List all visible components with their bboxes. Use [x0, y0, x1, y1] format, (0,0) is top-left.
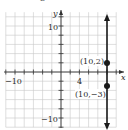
y-tick-label-neg10: −10: [41, 115, 58, 124]
line-arrow-up-icon: [104, 14, 110, 21]
y-axis-label: y: [52, 9, 58, 18]
x-tick-label-4: 4: [77, 77, 82, 86]
point-10-neg3: [104, 83, 110, 89]
line-arrow-down-icon: [104, 123, 110, 130]
x-axis-label: x: [121, 73, 126, 82]
point-label-10-2: (10,2): [80, 57, 104, 66]
y-tick-label-10: 10: [48, 23, 58, 32]
x-tick-label-neg10: −10: [5, 77, 22, 86]
coordinate-plane-chart: x y −10 4 10 −10 (10,2) (10,−3): [0, 0, 128, 130]
point-label-10-neg3: (10,−3): [75, 90, 106, 99]
y-axis-arrow-icon: [59, 10, 63, 15]
point-10-2: [104, 60, 110, 66]
